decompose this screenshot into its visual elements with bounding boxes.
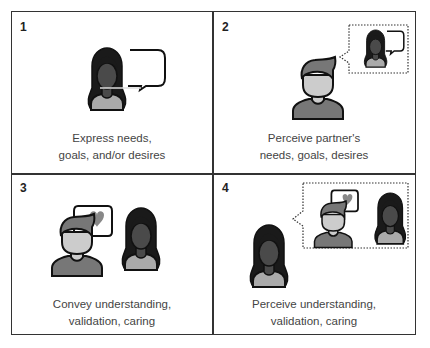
caption: Perceive partner's needs, goals, desires [214, 130, 414, 164]
woman-icon [120, 208, 164, 272]
thought-bubble-dotted-icon [340, 23, 410, 75]
horizontal-divider [11, 173, 416, 175]
woman-speaking-icon [86, 48, 166, 112]
man-icon [50, 214, 106, 276]
thought-bubble-dotted-icon [293, 181, 410, 251]
man-icon [291, 57, 347, 119]
caption: Express needs, goals, and/or desires [12, 130, 212, 164]
panel-number: 3 [20, 181, 27, 195]
panel-number: 1 [20, 20, 27, 34]
caption: Perceive understanding, validation, cari… [214, 296, 414, 330]
panel-number: 4 [222, 181, 229, 195]
caption: Convey understanding, validation, caring [12, 296, 212, 330]
panel-number: 2 [222, 20, 229, 34]
woman-icon [248, 225, 292, 289]
